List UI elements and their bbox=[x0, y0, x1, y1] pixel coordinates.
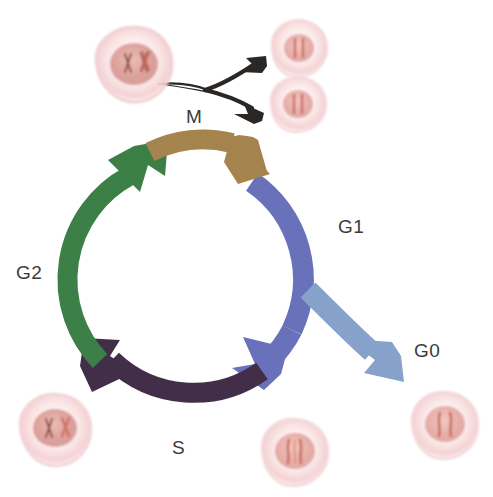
cell-s bbox=[262, 419, 328, 486]
cell-daughter-lower bbox=[271, 77, 326, 132]
phase-arrow-g0 bbox=[308, 290, 404, 382]
phase-label-g2: G2 bbox=[16, 262, 42, 284]
phase-label-g1: G1 bbox=[338, 216, 364, 238]
cell-parent-mitosis bbox=[96, 27, 172, 102]
mitosis-splitting-arrow bbox=[158, 56, 267, 124]
cell-g0 bbox=[412, 392, 478, 459]
phase-label-m: M bbox=[186, 106, 202, 128]
phase-label-s: S bbox=[172, 437, 185, 459]
phase-arrow-g2 bbox=[67, 140, 168, 361]
cell-g2 bbox=[20, 394, 91, 466]
cell-cycle-graphic bbox=[0, 0, 493, 497]
cell-daughter-upper bbox=[272, 20, 327, 77]
phase-arrow-m bbox=[150, 133, 270, 184]
phase-arrow-s bbox=[80, 338, 262, 393]
phase-label-g0: G0 bbox=[414, 340, 440, 362]
phase-arrow-g1 bbox=[232, 182, 303, 390]
cell-cycle-diagram: M G1 G2 G0 S bbox=[0, 0, 493, 497]
cycle-ring bbox=[67, 133, 404, 393]
